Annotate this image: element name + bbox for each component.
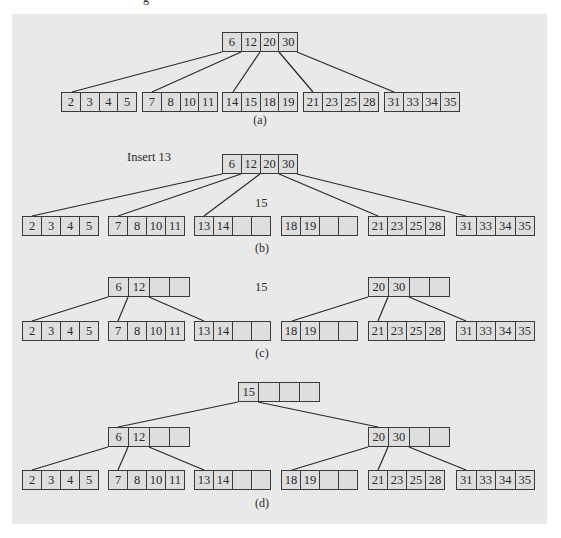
key-cell: 15 bbox=[242, 93, 261, 111]
btree-b-leaf-2: 7 8 10 11 bbox=[108, 216, 185, 236]
key-cell: 5 bbox=[80, 471, 98, 489]
key-cell: 3 bbox=[81, 93, 100, 111]
btree-a-leaf-4: 21 23 25 28 bbox=[303, 92, 379, 112]
key-cell: 21 bbox=[369, 322, 388, 340]
key-cell: 5 bbox=[80, 322, 98, 340]
key-cell bbox=[233, 322, 252, 340]
key-cell: 25 bbox=[407, 322, 426, 340]
key-cell: 6 bbox=[223, 33, 242, 51]
btree-d-leaf-3: 13 14 bbox=[194, 470, 271, 490]
btree-d-leaf-2: 7 8 10 11 bbox=[108, 470, 185, 490]
key-cell bbox=[150, 278, 170, 296]
key-cell: 23 bbox=[388, 471, 407, 489]
key-cell: 28 bbox=[360, 93, 378, 111]
key-cell: 13 bbox=[195, 471, 214, 489]
key-cell: 28 bbox=[426, 322, 444, 340]
key-cell: 33 bbox=[404, 93, 423, 111]
key-cell: 8 bbox=[162, 93, 181, 111]
btree-c-internal-left: 6 12 bbox=[108, 277, 190, 297]
key-cell: 18 bbox=[282, 471, 301, 489]
key-cell: 35 bbox=[441, 93, 459, 111]
btree-c-leaf-5: 21 23 25 28 bbox=[368, 321, 445, 341]
key-cell: 12 bbox=[129, 278, 149, 296]
key-cell: 3 bbox=[42, 322, 61, 340]
key-cell: 12 bbox=[242, 155, 261, 173]
key-cell bbox=[339, 471, 357, 489]
key-cell: 23 bbox=[388, 322, 407, 340]
btree-d-leaf-6: 31 33 34 35 bbox=[456, 470, 535, 490]
key-cell: 10 bbox=[147, 217, 166, 235]
cutoff-heading-glyph: g bbox=[143, 0, 149, 6]
key-cell: 11 bbox=[166, 217, 184, 235]
key-cell: 13 bbox=[195, 322, 214, 340]
key-cell: 19 bbox=[301, 217, 320, 235]
key-cell bbox=[280, 383, 300, 401]
key-cell bbox=[320, 322, 339, 340]
key-cell: 6 bbox=[223, 155, 242, 173]
key-cell: 23 bbox=[323, 93, 342, 111]
btree-a-leaf-1: 2 3 4 5 bbox=[61, 92, 137, 112]
btree-b-leaf-3: 13 14 bbox=[194, 216, 271, 236]
key-cell: 25 bbox=[407, 471, 426, 489]
key-cell: 11 bbox=[166, 471, 184, 489]
key-cell: 7 bbox=[109, 471, 128, 489]
key-cell: 34 bbox=[496, 217, 516, 235]
key-cell bbox=[430, 428, 449, 446]
btree-c-leaf-3: 13 14 bbox=[194, 321, 271, 341]
btree-d-leaf-4: 18 19 bbox=[281, 470, 358, 490]
key-cell: 18 bbox=[282, 217, 301, 235]
key-cell: 6 bbox=[109, 278, 129, 296]
key-cell: 4 bbox=[61, 217, 80, 235]
key-cell bbox=[233, 217, 252, 235]
btree-a-leaf-2: 7 8 10 11 bbox=[142, 92, 218, 112]
key-cell: 10 bbox=[147, 322, 166, 340]
key-cell: 31 bbox=[457, 217, 477, 235]
key-cell: 33 bbox=[477, 217, 497, 235]
key-cell: 2 bbox=[23, 322, 42, 340]
caption-a: (a) bbox=[253, 113, 266, 128]
key-cell: 4 bbox=[61, 471, 80, 489]
key-cell: 30 bbox=[389, 278, 409, 296]
key-cell: 2 bbox=[23, 217, 42, 235]
key-cell: 10 bbox=[181, 93, 200, 111]
key-cell: 14 bbox=[214, 217, 233, 235]
key-cell: 5 bbox=[80, 217, 98, 235]
key-cell: 28 bbox=[426, 471, 444, 489]
key-cell: 14 bbox=[214, 322, 233, 340]
key-cell: 25 bbox=[342, 93, 361, 111]
key-cell: 28 bbox=[426, 217, 444, 235]
key-cell: 11 bbox=[166, 322, 184, 340]
key-cell: 34 bbox=[423, 93, 442, 111]
btree-b-root-node: 6 12 20 30 bbox=[222, 154, 298, 174]
promoted-key-c: 15 bbox=[255, 280, 268, 295]
btree-a-leaf-5: 31 33 34 35 bbox=[384, 92, 460, 112]
key-cell: 31 bbox=[457, 471, 477, 489]
key-cell bbox=[252, 322, 270, 340]
btree-b-leaf-6: 31 33 34 35 bbox=[456, 216, 535, 236]
key-cell: 33 bbox=[477, 322, 497, 340]
btree-c-internal-right: 20 30 bbox=[368, 277, 450, 297]
key-cell: 11 bbox=[199, 93, 217, 111]
btree-c-leaf-4: 18 19 bbox=[281, 321, 358, 341]
key-cell bbox=[320, 217, 339, 235]
key-cell: 23 bbox=[388, 217, 407, 235]
key-cell: 8 bbox=[128, 217, 147, 235]
key-cell: 14 bbox=[223, 93, 242, 111]
key-cell bbox=[300, 383, 319, 401]
key-cell: 21 bbox=[304, 93, 323, 111]
key-cell: 4 bbox=[100, 93, 119, 111]
key-cell: 21 bbox=[369, 471, 388, 489]
key-cell bbox=[150, 428, 170, 446]
key-cell: 15 bbox=[239, 383, 259, 401]
key-cell: 35 bbox=[516, 217, 535, 235]
btree-b-leaf-4: 18 19 bbox=[281, 216, 358, 236]
key-cell bbox=[170, 428, 189, 446]
btree-d-root-node: 15 bbox=[238, 382, 320, 402]
key-cell: 7 bbox=[109, 217, 128, 235]
caption-b: (b) bbox=[255, 241, 269, 256]
btree-a-leaf-3: 14 15 18 19 bbox=[222, 92, 298, 112]
key-cell: 6 bbox=[109, 428, 129, 446]
btree-c-leaf-6: 31 33 34 35 bbox=[456, 321, 535, 341]
key-cell: 30 bbox=[389, 428, 409, 446]
figure-panel bbox=[12, 14, 547, 524]
